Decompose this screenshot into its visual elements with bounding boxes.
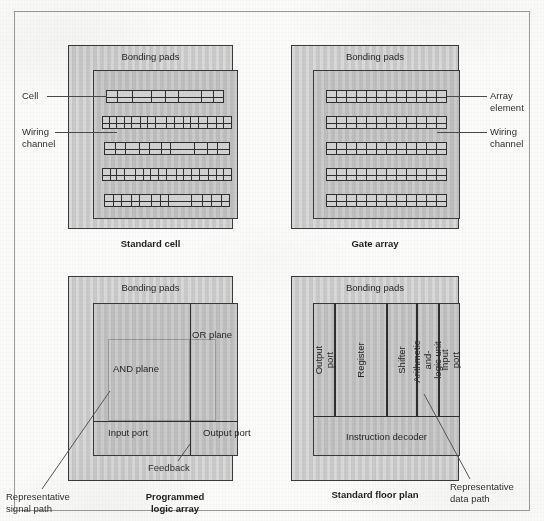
cell (347, 143, 357, 154)
cell (407, 169, 417, 180)
cell (337, 91, 347, 102)
cell-row (104, 142, 230, 155)
leader-line-representative-signal-path (0, 261, 272, 521)
array-row (326, 168, 447, 181)
cell (199, 117, 209, 128)
cell (377, 169, 387, 180)
cell (122, 195, 132, 206)
cell (125, 117, 132, 128)
callout-label-wiring-channel: Wiring channel (22, 126, 55, 149)
cell (327, 91, 337, 102)
cell (217, 169, 224, 180)
panel-gate-array: Bonding pads Array element Wiring channe… (272, 0, 544, 261)
cell (377, 117, 387, 128)
cell (347, 195, 357, 206)
cell (212, 195, 222, 206)
cell (397, 143, 407, 154)
cell (437, 117, 446, 128)
cell (166, 91, 179, 102)
cell (427, 91, 437, 102)
cell (159, 169, 167, 180)
cell (387, 169, 397, 180)
leader-line-array-element (447, 96, 487, 97)
cell (417, 169, 427, 180)
cell (327, 117, 337, 128)
cell (427, 169, 437, 180)
cell (222, 195, 229, 206)
cell (327, 143, 337, 154)
cell (200, 169, 209, 180)
cell (387, 91, 397, 102)
cell (152, 91, 166, 102)
cell (224, 169, 231, 180)
cell-row (104, 194, 230, 207)
cell (337, 169, 347, 180)
panel-programmed-logic-array: Bonding pads AND plane OR plane Input po… (0, 261, 272, 521)
cell (427, 143, 437, 154)
cell (437, 169, 446, 180)
bonding-pads-label-gate-array: Bonding pads (291, 51, 459, 62)
cell (184, 117, 191, 128)
panel-standard-floor-plan: Bonding pads Output port Register Shifte… (272, 261, 544, 521)
cell (167, 169, 177, 180)
cell (191, 117, 199, 128)
cell (437, 195, 446, 206)
cell (217, 117, 224, 128)
cell (397, 169, 407, 180)
cell (387, 117, 397, 128)
cell (162, 143, 171, 154)
callout-label-array-element: Array element (490, 90, 524, 113)
panel-caption-floor-plan: Standard floor plan (291, 489, 459, 501)
cell (136, 169, 144, 180)
panel-caption-gate-array: Gate array (291, 238, 459, 250)
cell (397, 117, 407, 128)
cell (377, 143, 387, 154)
cell (107, 91, 118, 102)
cell (140, 143, 150, 154)
array-row (326, 194, 447, 207)
cell (208, 117, 217, 128)
cell (184, 169, 192, 180)
cell (105, 143, 116, 154)
cell (202, 91, 214, 102)
cell (171, 143, 194, 154)
cell (116, 143, 125, 154)
callout-label-cell: Cell (22, 90, 38, 102)
cell (427, 117, 437, 128)
cell (337, 143, 347, 154)
cell (327, 195, 337, 206)
cell (367, 195, 377, 206)
cell (126, 143, 140, 154)
cell (150, 143, 162, 154)
cell (407, 117, 417, 128)
cell (117, 117, 125, 128)
cell (151, 169, 159, 180)
cell (367, 143, 377, 154)
cell (357, 91, 367, 102)
panel-caption-pla: Programmed logic array (110, 491, 240, 514)
cell (347, 169, 357, 180)
leader-line-cell (47, 96, 107, 97)
cell (209, 169, 217, 180)
cell (152, 195, 161, 206)
cell (117, 169, 125, 180)
panel-caption-standard-cell: Standard cell (68, 238, 233, 250)
cell (175, 117, 184, 128)
callout-label-wiring-channel: Wiring channel (490, 126, 523, 149)
cell (377, 91, 387, 102)
cell (132, 195, 140, 206)
cell (208, 143, 218, 154)
cell (141, 117, 148, 128)
cell (118, 91, 133, 102)
cell (327, 169, 337, 180)
array-row (326, 116, 447, 129)
cell-row (102, 116, 232, 129)
cell (140, 195, 152, 206)
cell (357, 195, 367, 206)
cell (357, 169, 367, 180)
bonding-pads-label-standard-cell: Bonding pads (68, 51, 233, 62)
cell (195, 143, 208, 154)
cell (387, 195, 397, 206)
cell (133, 91, 152, 102)
callout-label-representative-data-path: Representative data path (450, 481, 514, 504)
